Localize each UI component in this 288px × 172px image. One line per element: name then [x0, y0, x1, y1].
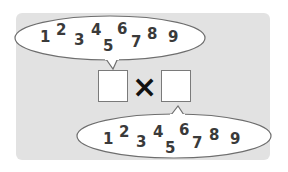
top-digit-7[interactable]: 7	[131, 33, 141, 51]
top-digit-1[interactable]: 1	[40, 28, 50, 46]
bottom-digit-5[interactable]: 5	[165, 139, 175, 157]
right-answer-box[interactable]	[161, 70, 191, 102]
bottom-speech-bubble: 1 2 3 4 5 6 7 8 9	[77, 106, 271, 158]
bottom-digit-3[interactable]: 3	[136, 133, 146, 151]
top-digit-6[interactable]: 6	[117, 20, 127, 38]
top-digit-2[interactable]: 2	[56, 21, 66, 39]
bottom-digit-7[interactable]: 7	[192, 134, 202, 152]
bottom-digit-2[interactable]: 2	[119, 123, 129, 141]
bottom-digit-6[interactable]: 6	[179, 121, 189, 139]
top-digit-8[interactable]: 8	[147, 25, 157, 43]
top-speech-bubble: 1 2 3 4 5 6 7 8 9	[15, 16, 205, 69]
bottom-digit-9[interactable]: 9	[230, 130, 240, 148]
multiply-sign: ×	[132, 72, 157, 102]
top-digit-9[interactable]: 9	[168, 28, 178, 46]
bottom-digit-1[interactable]: 1	[103, 130, 113, 148]
bottom-digit-8[interactable]: 8	[209, 126, 219, 144]
top-digit-4[interactable]: 4	[91, 21, 101, 39]
top-digit-5[interactable]: 5	[103, 37, 113, 55]
top-digit-3[interactable]: 3	[74, 31, 84, 49]
left-answer-box[interactable]	[98, 70, 128, 102]
bottom-digit-4[interactable]: 4	[153, 123, 163, 141]
